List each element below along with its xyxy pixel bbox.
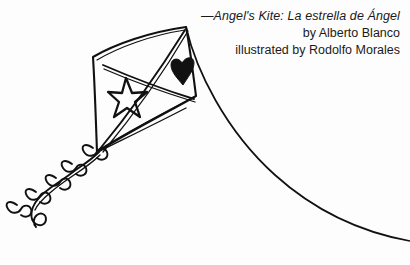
tail-ribbon [7, 202, 32, 217]
kite-tail-secondary [35, 155, 100, 210]
caption-illustrator: illustrated by Rodolfo Morales [170, 42, 400, 59]
caption-title: —Angel's Kite: La estrella de Ángel [170, 8, 400, 25]
caption-author: by Alberto Blanco [170, 25, 400, 42]
kite-string [186, 27, 410, 241]
caption-block: —Angel's Kite: La estrella de Ángel by A… [170, 8, 400, 59]
tail-ribbons [7, 145, 108, 217]
heart-motif [171, 58, 194, 85]
illustration-page: —Angel's Kite: La estrella de Ángel by A… [0, 0, 410, 265]
